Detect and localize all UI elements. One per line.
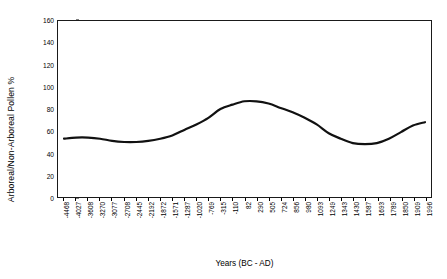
- x-tick-label: -110: [232, 196, 239, 208]
- y-axis-title: Arboreal/Non-Arboreal Pollen %: [0, 0, 22, 279]
- x-tick-label: -2445: [136, 194, 143, 210]
- x-tick-label: 505: [269, 197, 276, 208]
- x-tick-label: 1430: [353, 195, 360, 209]
- x-tick-label-text: -4027: [75, 202, 82, 218]
- x-tick-label: -1571: [172, 194, 179, 210]
- x-tick-label-text: 82: [245, 202, 252, 209]
- x-tick-label: 1909: [414, 195, 421, 209]
- x-tick-label-text: 1343: [341, 202, 348, 216]
- x-tick-label-text: 1587: [365, 202, 372, 216]
- x-tick-label: 1789: [390, 195, 397, 209]
- x-tick-label: 1996: [426, 195, 433, 209]
- x-tick-label: 82: [245, 198, 252, 205]
- x-tick-label: 290: [257, 197, 264, 208]
- x-tick-label-text: -3270: [99, 202, 106, 218]
- x-tick-label: 1343: [341, 195, 348, 209]
- y-tick-label: 60: [47, 128, 54, 135]
- x-tick-label: -2192: [148, 194, 155, 210]
- x-tick-label-text: -2708: [124, 202, 131, 218]
- y-tick-label: 20: [47, 172, 54, 179]
- x-tick-label: 1587: [365, 195, 372, 209]
- y-tick-label: 120: [43, 61, 54, 68]
- x-tick-label-text: -4468: [63, 202, 70, 218]
- x-tick-label-text: -769: [208, 202, 215, 215]
- plot-area: [57, 20, 432, 198]
- x-tick-label: -315: [220, 196, 227, 209]
- y-axis-tick-labels: 020406080100120140160: [22, 20, 54, 198]
- pollen-percentage-chart: Arboreal/Non-Arboreal Pollen % 020406080…: [0, 0, 447, 279]
- x-tick-label-text: -3608: [87, 202, 94, 218]
- x-tick-label: -3270: [99, 194, 106, 210]
- x-tick-label-text: 724: [281, 202, 288, 213]
- y-tick-label: 80: [47, 106, 54, 113]
- x-tick-label-text: -1571: [172, 202, 179, 218]
- x-tick-label: 1693: [378, 195, 385, 209]
- x-tick-label-text: 505: [269, 202, 276, 213]
- x-tick-label: -3608: [87, 194, 94, 210]
- x-tick-label: 1850: [402, 195, 409, 209]
- x-tick-label-text: 1909: [414, 202, 421, 216]
- y-tick-label: 140: [43, 39, 54, 46]
- x-tick-label-text: 1789: [390, 202, 397, 216]
- series-path: [64, 101, 425, 144]
- x-tick-label: -1872: [160, 194, 167, 210]
- x-tick-label-text: 1430: [353, 202, 360, 216]
- x-tick-label-text: 1693: [378, 202, 385, 216]
- x-tick-label-text: -3077: [111, 202, 118, 218]
- y-tick-label: 100: [43, 83, 54, 90]
- x-tick-label-text: -110: [232, 202, 239, 214]
- x-tick-label-text: 1249: [329, 202, 336, 216]
- x-tick-label: 724: [281, 197, 288, 208]
- x-tick-label: -1287: [184, 194, 191, 210]
- y-tick-label: 0: [50, 195, 54, 202]
- x-tick-label: -769: [208, 196, 215, 209]
- y-tick-label: 40: [47, 150, 54, 157]
- x-axis-title: Years (BC - AD): [57, 259, 432, 268]
- x-tick-label: -4027: [75, 194, 82, 210]
- x-tick-label: 1093: [317, 195, 324, 209]
- x-axis-tick-labels: -4468-4027-3608-3270-3077-2708-2445-2192…: [57, 202, 432, 254]
- x-tick-label: 856: [293, 197, 300, 208]
- y-tick-label: 160: [43, 17, 54, 24]
- x-tick-label-text: 1996: [426, 202, 433, 216]
- x-tick-label-text: 980: [305, 202, 312, 213]
- x-tick-label-text: -2445: [136, 202, 143, 218]
- x-tick-label-text: -1020: [196, 202, 203, 218]
- x-tick-label: -3077: [111, 194, 118, 210]
- x-tick-label: 1249: [329, 195, 336, 209]
- x-tick-label-text: 290: [257, 202, 264, 213]
- x-tick-label-text: -315: [220, 202, 227, 215]
- x-tick-label: -1020: [196, 194, 203, 210]
- x-tick-label: 980: [305, 197, 312, 208]
- x-tick-label-text: -2192: [148, 202, 155, 218]
- data-line-series: [58, 21, 431, 197]
- x-tick-label-text: -1872: [160, 202, 167, 218]
- x-tick-label-text: 856: [293, 202, 300, 213]
- x-tick-label: -4468: [63, 194, 70, 210]
- x-tick-label: -2708: [124, 194, 131, 210]
- x-tick-label-text: 1850: [402, 202, 409, 216]
- x-tick-label-text: 1093: [317, 202, 324, 216]
- x-tick-label-text: -1287: [184, 202, 191, 218]
